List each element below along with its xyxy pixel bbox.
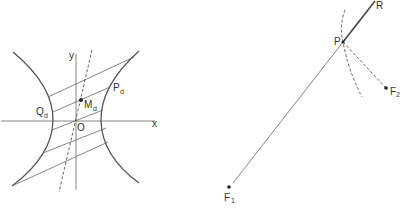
label-f1-sub: 1: [231, 197, 235, 204]
label-m-sub: d: [93, 105, 97, 112]
label-q-main: Q: [36, 106, 44, 117]
label-q-sub: d: [44, 112, 48, 119]
chord-line: [43, 128, 106, 153]
label-r: R: [376, 0, 383, 11]
focal-reflection-figure: P R F 1 F 2: [224, 0, 400, 204]
label-m-main: M: [84, 99, 92, 110]
point-p-dot: [341, 40, 344, 43]
hyperbola-figure: y x O Q d M d P d: [1, 50, 157, 192]
focal-line-f1-p: [233, 42, 343, 183]
focus-f1-dot: [227, 185, 231, 189]
x-axis-label: x: [152, 118, 157, 129]
chord-line: [12, 142, 108, 186]
origin-label: O: [77, 122, 85, 133]
midpoint-dot: [79, 98, 83, 102]
hyperbola-left-branch: [12, 52, 53, 186]
label-p-sub: d: [120, 88, 124, 95]
label-p: P: [334, 36, 341, 47]
label-p-main: P: [113, 82, 120, 93]
dashed-line-p-f2: [343, 42, 386, 88]
label-f2-sub: 2: [396, 91, 400, 98]
dashed-hyperbola-arc: [341, 10, 362, 97]
hyperbola-right-branch: [101, 51, 139, 183]
label-f1-main: F: [224, 192, 230, 203]
y-axis-label: y: [69, 50, 74, 61]
focus-f2-dot: [384, 86, 388, 90]
diagram-canvas: y x O Q d M d P d P R F 1 F 2: [0, 0, 402, 210]
reflected-ray-p-r: [343, 1, 375, 42]
